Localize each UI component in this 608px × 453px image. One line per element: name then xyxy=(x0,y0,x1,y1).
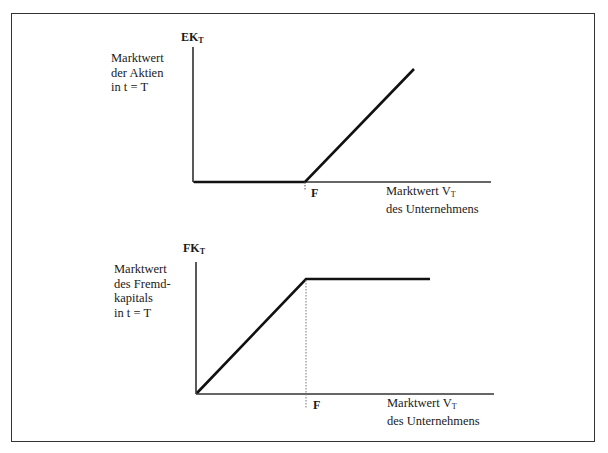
top-y-axis-label: Marktwert der Aktien in t = T xyxy=(111,51,164,95)
bottom-y-axis-symbol: FKT xyxy=(183,241,205,259)
bottom-x-axis-label: Marktwert VT des Unternehmens xyxy=(387,396,480,429)
payoff-diagrams xyxy=(0,0,608,453)
debt-payoff-line xyxy=(197,279,430,393)
top-y-axis-symbol: EKT xyxy=(181,30,204,48)
equity-payoff-line xyxy=(194,69,414,182)
bottom-chart xyxy=(196,262,494,408)
top-f-label: F xyxy=(311,186,318,201)
bottom-y-axis-label: Marktwert des Fremd- kapitals in t = T xyxy=(114,262,171,320)
top-chart xyxy=(193,47,491,191)
bottom-f-label: F xyxy=(313,398,320,413)
top-x-axis-label: Marktwert VT des Unternehmens xyxy=(386,184,479,217)
